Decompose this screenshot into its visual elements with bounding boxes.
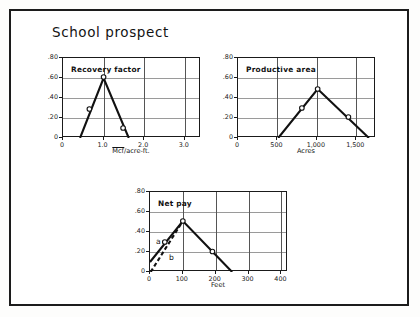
x-axis-tick-mark [182,271,183,274]
data-point-marker [162,240,167,245]
x-axis-tick-label: 400 [274,275,286,283]
figure-page: School prospect Recovery factor0.20.40.6… [0,0,420,317]
data-point-marker [181,219,186,224]
x-axis-caption-net-pay: Feet [211,281,225,289]
y-axis-tick-mark [146,211,149,212]
series-label-b: b [169,253,174,262]
chart-net-pay: Net payab0.20.40.60.800100200300400Feet [0,0,420,317]
x-axis-tick-label: 300 [241,275,253,283]
y-axis-tick-label: .60 [127,207,145,215]
data-point-marker [210,249,215,254]
y-axis-tick-mark [146,231,149,232]
x-axis-tick-mark [215,271,216,274]
series-label-a: a [156,237,161,246]
series-line-a [150,221,232,272]
x-axis-tick-mark [248,271,249,274]
y-axis-tick-label: .40 [127,227,145,235]
x-axis-tick-label: 100 [176,275,188,283]
x-axis-tick-mark [280,271,281,274]
y-axis-tick-label: .80 [127,187,145,195]
plot-area-net-pay: Net payab [149,191,287,271]
y-axis-tick-mark [146,251,149,252]
y-axis-tick-mark [146,191,149,192]
y-axis-tick-label: .20 [127,247,145,255]
x-axis-tick-label: 0 [147,275,151,283]
y-axis-tick-label: 0 [127,267,145,275]
x-axis-tick-mark [149,271,150,274]
